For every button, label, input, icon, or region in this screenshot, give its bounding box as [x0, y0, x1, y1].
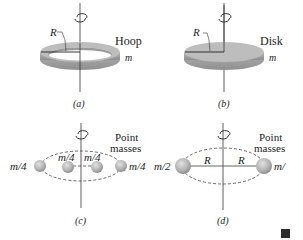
mass-label: m/	[274, 161, 285, 172]
point-masses-two-figure	[175, 123, 272, 210]
radius-label: R	[193, 27, 200, 38]
mass-label: m/4	[129, 161, 146, 172]
caption-a: (a)	[73, 98, 85, 109]
point-mass	[34, 160, 46, 172]
point-mass	[256, 158, 272, 174]
rotation-arrow-icon	[76, 131, 88, 139]
hoop-figure	[40, 3, 120, 92]
diagram-canvas	[0, 0, 303, 240]
radius-label: R	[50, 27, 57, 38]
mass-label: m/2	[154, 161, 171, 172]
point-masses-label-line2: masses	[110, 143, 141, 154]
mass-label: m	[269, 52, 276, 63]
radius-label: R	[204, 155, 211, 166]
point-mass	[175, 158, 191, 174]
rotation-arrow-icon	[219, 14, 231, 22]
mass-label: m/4	[58, 152, 75, 163]
hoop-label: Hoop	[115, 36, 142, 47]
point-masses-label-line2: masses	[254, 143, 285, 154]
caption-d: (d)	[217, 215, 229, 226]
rotation-arrow-icon	[75, 14, 87, 22]
end-of-section-mark	[281, 229, 290, 238]
mass-label: m/4	[10, 161, 27, 172]
point-mass	[115, 160, 127, 172]
mass-label: m	[125, 52, 132, 63]
disk-figure	[184, 3, 264, 92]
radius-label: R	[238, 155, 245, 166]
mass-label: m/4	[84, 152, 101, 163]
point-masses-four-figure	[34, 123, 127, 208]
caption-b: (b)	[218, 98, 230, 109]
rotation-arrow-icon	[218, 131, 230, 139]
disk-label: Disk	[260, 36, 283, 47]
caption-c: (c)	[75, 215, 86, 226]
